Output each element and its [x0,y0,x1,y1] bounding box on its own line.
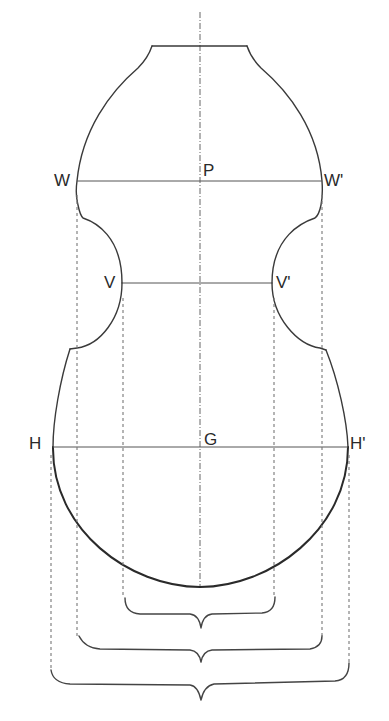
label-h: H [29,434,41,453]
label-g: G [204,430,217,449]
waist-width-brace [125,597,275,628]
label-w-prime: W' [324,171,343,190]
upper-bout-width-brace [79,636,322,662]
label-w: W [54,171,70,190]
lower-bout-width-brace [51,663,349,700]
label-v-prime: V' [276,273,291,292]
label-v: V [104,273,116,292]
label-h-prime: H' [350,434,366,453]
violin-outline-diagram: W W' P V V' H H' G [0,0,389,721]
label-p: P [203,161,214,180]
